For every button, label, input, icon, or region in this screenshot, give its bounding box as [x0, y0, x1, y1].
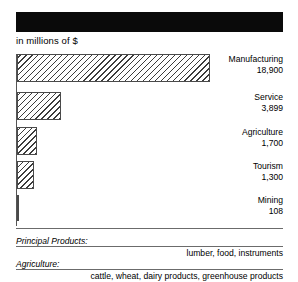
- bar-label-service: Service 3,899: [254, 92, 283, 113]
- header-banner: [16, 12, 283, 32]
- divider: [16, 228, 283, 229]
- bar-category-label: Mining: [258, 195, 283, 206]
- bar-service: [17, 92, 61, 120]
- bar-category-label: Manufacturing: [229, 54, 283, 65]
- bar-label-agriculture: Agriculture 1,700: [242, 127, 283, 148]
- bar-value-label: 18,900: [229, 65, 283, 76]
- bar-value-label: 3,899: [254, 103, 283, 114]
- bar-row: Manufacturing 18,900: [0, 54, 298, 88]
- bar-label-mining: Mining 108: [258, 195, 283, 216]
- bar-value-label: 108: [258, 206, 283, 217]
- divider: [16, 246, 283, 247]
- bar-row: Agriculture 1,700: [0, 127, 298, 161]
- bar-tourism: [17, 161, 34, 189]
- bar-mining: [17, 195, 19, 221]
- fact-value-agriculture: cattle, wheat, dairy products, greenhous…: [90, 271, 283, 282]
- bar-label-manufacturing: Manufacturing 18,900: [229, 54, 283, 75]
- bar-value-label: 1,300: [253, 172, 283, 183]
- bar-row: Tourism 1,300: [0, 161, 298, 195]
- bar-agriculture: [17, 127, 37, 155]
- bar-chart: Manufacturing 18,900 Service 3,899 Agric…: [0, 54, 298, 226]
- chart-units-caption: in millions of $: [16, 35, 78, 47]
- bar-category-label: Agriculture: [242, 127, 283, 138]
- bar-label-tourism: Tourism 1,300: [253, 161, 283, 182]
- bar-row: Service 3,899: [0, 92, 298, 126]
- bar-category-label: Tourism: [253, 161, 283, 172]
- bar-row: Mining 108: [0, 195, 298, 229]
- bar-category-label: Service: [254, 92, 283, 103]
- bar-manufacturing: [17, 54, 210, 82]
- fact-value-principal-products: lumber, food, instruments: [187, 248, 284, 259]
- divider: [16, 269, 283, 270]
- bar-value-label: 1,700: [242, 138, 283, 149]
